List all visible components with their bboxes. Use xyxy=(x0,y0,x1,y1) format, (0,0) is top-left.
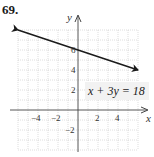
x-tick: −4 xyxy=(31,113,41,123)
equation-label: x + 3y = 18 xyxy=(88,84,145,99)
graph: −4 −2 2 4 6 4 2 −2 x y xyxy=(0,0,154,157)
y-tick: −2 xyxy=(65,125,75,135)
y-axis-label: y xyxy=(66,11,72,23)
x-axis-label: x xyxy=(145,112,151,124)
x-tick: −2 xyxy=(51,113,61,123)
y-tick: 4 xyxy=(71,65,76,75)
x-tick: 2 xyxy=(95,113,100,123)
y-tick: 6 xyxy=(71,45,76,55)
x-tick: 4 xyxy=(115,113,120,123)
y-tick: 2 xyxy=(71,85,76,95)
